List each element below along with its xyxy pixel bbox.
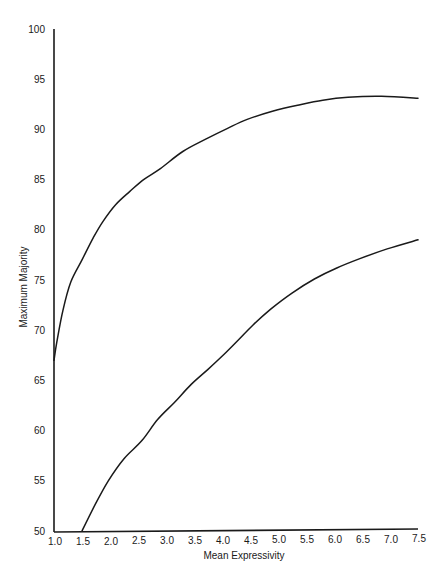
x-tick-label: 3.0 — [160, 535, 174, 546]
x-tick-label: 2.5 — [132, 535, 146, 546]
x-tick-label: 3.5 — [188, 535, 202, 546]
y-tick-label: 100 — [28, 24, 45, 35]
upper-curve-line — [54, 96, 418, 360]
x-tick-label: 6.5 — [356, 534, 370, 545]
y-tick-label: 55 — [34, 475, 46, 486]
y-tick-label: 50 — [34, 526, 46, 537]
x-axis-title: Mean Expressivity — [203, 550, 284, 561]
x-tick-label: 6.0 — [328, 534, 342, 545]
y-tick-label: 60 — [34, 425, 46, 436]
x-tick-label: 1.0 — [48, 536, 62, 547]
y-tick-label: 85 — [34, 174, 46, 185]
y-axis-tick-labels: 50556065707580859095100 — [28, 24, 45, 537]
x-tick-label: 2.0 — [104, 536, 118, 547]
x-tick-label: 4.5 — [244, 535, 258, 546]
x-axis-line — [54, 529, 418, 532]
plot-area — [54, 96, 418, 531]
y-tick-label: 80 — [34, 224, 46, 235]
y-tick-label: 95 — [34, 74, 46, 85]
x-axis-tick-labels: 1.01.52.02.53.03.54.04.55.05.56.06.57.07… — [48, 533, 426, 547]
x-tick-label: 7.0 — [384, 534, 398, 545]
lower-curve-line — [82, 240, 418, 531]
line-chart: 1.01.52.02.53.03.54.04.55.05.56.06.57.07… — [0, 0, 443, 583]
y-tick-label: 90 — [34, 124, 46, 135]
y-tick-label: 75 — [34, 275, 46, 286]
x-tick-label: 1.5 — [76, 536, 90, 547]
x-tick-label: 5.0 — [272, 534, 286, 545]
x-tick-label: 7.5 — [412, 533, 426, 544]
y-axis-title: Maximum Majority — [18, 246, 29, 327]
x-tick-label: 4.0 — [216, 535, 230, 546]
y-tick-label: 70 — [34, 325, 46, 336]
x-tick-label: 5.5 — [300, 534, 314, 545]
y-tick-label: 65 — [34, 375, 46, 386]
